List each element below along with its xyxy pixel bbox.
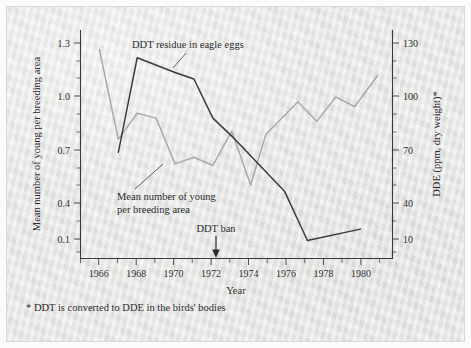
left-tick-label: 0.7	[58, 145, 71, 156]
annotation-mean-young-label-line1: Mean number of young	[117, 191, 217, 202]
x-axis-title: Year	[226, 285, 246, 296]
bottom-axis-tick-labels: 1966 1968 1970 1972 1974 1976 1978 1980	[89, 268, 371, 279]
leader-line-ddt-residue	[173, 53, 186, 68]
footnote: * DDT is converted to DDE in the birds' …	[26, 302, 226, 313]
x-tick-label: 1966	[89, 268, 109, 279]
x-tick-label: 1976	[276, 268, 296, 279]
left-axis-tick-labels: 1.3 1.0 0.7 0.4 0.1	[58, 38, 71, 245]
annotation-ddt-ban-label: DDT ban	[196, 223, 236, 234]
right-axis-title: DDE (ppm, dry weight)*	[431, 91, 443, 197]
right-axis-ticks	[393, 43, 400, 252]
right-tick-label: 100	[403, 91, 418, 102]
chart-svg: 1.3 1.0 0.7 0.4 0.1 Mean number of young…	[0, 0, 471, 348]
left-axis-ticks	[74, 43, 81, 252]
left-axis-title: Mean number of young per breeding area	[31, 56, 42, 231]
x-tick-label: 1978	[313, 268, 333, 279]
annotation-mean-young-label-line2: per breeding area	[117, 204, 190, 215]
right-tick-label: 70	[403, 145, 413, 156]
x-tick-label: 1980	[351, 268, 371, 279]
ddt-ban-arrow-icon	[212, 236, 220, 258]
x-tick-label: 1968	[126, 268, 146, 279]
leader-line-mean-young	[135, 164, 163, 189]
left-tick-label: 1.3	[58, 38, 71, 49]
x-tick-label: 1972	[201, 268, 221, 279]
left-tick-label: 0.4	[58, 198, 71, 209]
bottom-axis-ticks	[81, 259, 380, 266]
right-tick-label: 40	[403, 198, 413, 209]
right-tick-label: 10	[403, 234, 413, 245]
annotation-ddt-residue-label: DDT residue in eagle eggs	[132, 39, 244, 50]
right-tick-label: 130	[403, 38, 418, 49]
series-mean-young-line	[99, 50, 377, 185]
right-axis-tick-labels: 130 100 70 40 10	[403, 38, 418, 245]
figure-container: 1.3 1.0 0.7 0.4 0.1 Mean number of young…	[0, 0, 471, 348]
left-tick-label: 0.1	[58, 234, 71, 245]
x-tick-label: 1970	[164, 268, 184, 279]
left-tick-label: 1.0	[58, 91, 71, 102]
x-tick-label: 1974	[239, 268, 259, 279]
